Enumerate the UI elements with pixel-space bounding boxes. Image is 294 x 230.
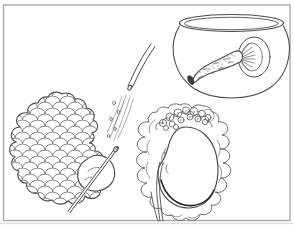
medical-illustration [0,0,294,230]
scan-artifact-band [0,223,294,225]
kidney-figure [137,104,231,221]
